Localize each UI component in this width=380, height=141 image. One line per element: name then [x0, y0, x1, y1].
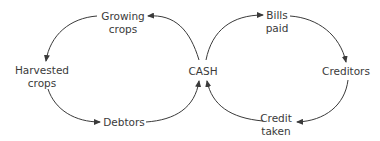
- node-debtors: Debtors: [103, 116, 145, 129]
- node-label-line2: paid: [266, 22, 289, 35]
- node-bills-paid: Bills paid: [266, 9, 289, 35]
- arrow-cash-to-bills: [206, 15, 263, 60]
- arrow-cash-to-growing: [148, 16, 199, 60]
- cash-cycle-diagram: Growing crops Harvested crops Debtors CA…: [0, 0, 380, 141]
- node-label-line1: Credit: [260, 112, 292, 125]
- arrow-debtors-to-cash: [146, 81, 199, 122]
- node-growing-crops: Growing crops: [101, 10, 144, 36]
- node-label-line1: Harvested: [15, 64, 69, 77]
- node-label-line1: CASH: [188, 65, 217, 78]
- arrow-creditors-to-credit: [297, 80, 348, 122]
- node-label-line1: Growing: [101, 10, 144, 23]
- arrow-bills-to-creditors: [290, 16, 346, 62]
- node-cash: CASH: [188, 65, 217, 78]
- arrow-credit-to-cash: [207, 81, 263, 121]
- node-label-line1: Creditors: [322, 65, 370, 78]
- node-label-line2: taken: [260, 125, 292, 138]
- node-harvested-crops: Harvested crops: [15, 64, 69, 90]
- node-creditors: Creditors: [322, 65, 370, 78]
- node-credit-taken: Credit taken: [260, 112, 292, 138]
- arrow-growing-to-harvested: [46, 16, 97, 61]
- node-label-line2: crops: [101, 23, 144, 36]
- arrow-harvested-to-debtors: [48, 89, 100, 122]
- node-label-line2: crops: [15, 77, 69, 90]
- node-label-line1: Bills: [266, 9, 289, 22]
- node-label-line1: Debtors: [103, 116, 145, 129]
